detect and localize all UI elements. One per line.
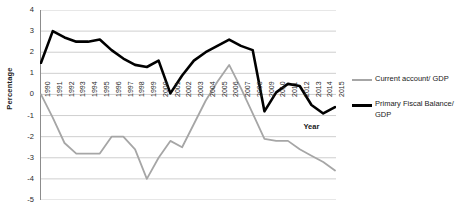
gridlines bbox=[40, 10, 336, 200]
x-tick-label: 1991 bbox=[56, 82, 63, 98]
legend-label: Primary Fiscal Balance/ GDP bbox=[375, 99, 455, 121]
x-tick-label: 1997 bbox=[127, 82, 134, 98]
x-tick-label: 1995 bbox=[103, 82, 110, 98]
series-line-primary-fiscal-balance bbox=[41, 31, 335, 113]
legend-item: Current account/ GDP bbox=[352, 74, 457, 85]
y-tick-label: -1 bbox=[18, 112, 34, 120]
plot-area bbox=[40, 10, 336, 200]
x-tick-label: 1999 bbox=[150, 82, 157, 98]
x-tick-label: 2006 bbox=[232, 82, 239, 98]
x-tick-label: 2000 bbox=[162, 82, 169, 98]
x-tick-label: 1992 bbox=[68, 82, 75, 98]
x-tick-label: 2003 bbox=[197, 82, 204, 98]
plot-svg bbox=[40, 10, 336, 200]
x-tick-label: 2004 bbox=[209, 82, 216, 98]
chart-container: Percentage 43210-1-2-3-4-5 1990199119921… bbox=[0, 0, 457, 218]
y-tick-label: -4 bbox=[18, 175, 34, 183]
x-tick-label: 2002 bbox=[185, 82, 192, 98]
y-tick-label: 2 bbox=[18, 48, 34, 56]
x-tick-label: 2015 bbox=[338, 82, 345, 98]
x-tick-label: 2013 bbox=[315, 82, 322, 98]
x-tick-label: 2007 bbox=[244, 82, 251, 98]
y-tick-label: -2 bbox=[18, 133, 34, 141]
x-tick-label: 1996 bbox=[115, 82, 122, 98]
y-tick-label: 3 bbox=[18, 27, 34, 35]
x-tick-label: 2010 bbox=[279, 82, 286, 98]
x-tick-label: 2012 bbox=[303, 82, 310, 98]
series-lines bbox=[41, 31, 335, 179]
y-tick-label: 4 bbox=[18, 6, 34, 14]
x-tick-label: 1998 bbox=[138, 82, 145, 98]
y-tick-label: 1 bbox=[18, 69, 34, 77]
x-tick-label: 2009 bbox=[268, 82, 275, 98]
x-tick-label: 2005 bbox=[221, 82, 228, 98]
x-tick-label: 1993 bbox=[79, 82, 86, 98]
legend-swatch-icon bbox=[352, 104, 372, 107]
x-tick-label: 1994 bbox=[91, 82, 98, 98]
x-tick-label: 1990 bbox=[44, 82, 51, 98]
x-tick-label: 2001 bbox=[174, 82, 181, 98]
y-tick-label: 0 bbox=[18, 90, 34, 98]
legend-item: Primary Fiscal Balance/ GDP bbox=[352, 99, 457, 121]
x-tick-label: 2008 bbox=[256, 82, 263, 98]
legend-swatch-icon bbox=[352, 79, 372, 81]
y-axis-title: Percentage bbox=[5, 59, 14, 119]
chart-legend: Current account/ GDPPrimary Fiscal Balan… bbox=[352, 74, 457, 135]
y-axis-tick-labels: 43210-1-2-3-4-5 bbox=[16, 0, 34, 218]
x-axis-title: Year bbox=[303, 122, 319, 131]
x-tick-label: 2011 bbox=[291, 82, 298, 97]
y-tick-label: -5 bbox=[18, 196, 34, 204]
x-tick-label: 2014 bbox=[326, 82, 333, 98]
y-tick-label: -3 bbox=[18, 154, 34, 162]
legend-label: Current account/ GDP bbox=[375, 74, 449, 85]
